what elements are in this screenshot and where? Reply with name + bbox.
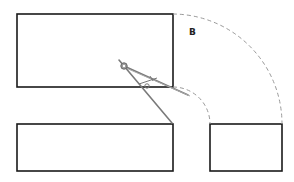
compass-hinge-center	[123, 65, 125, 67]
top-left-rectangle	[17, 14, 173, 87]
arc-label: B	[189, 27, 196, 37]
bottom-left-rectangle	[17, 124, 173, 171]
diagram-canvas: B	[0, 0, 294, 182]
bottom-right-rectangle	[210, 124, 282, 171]
inner-arc	[173, 87, 210, 124]
